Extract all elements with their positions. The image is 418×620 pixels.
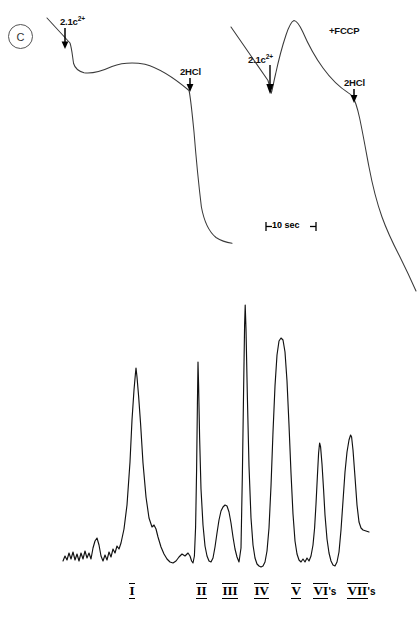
label-hcl-right: 2HCl xyxy=(344,77,365,88)
peak-label-3: III xyxy=(222,583,238,599)
panel-letter: C xyxy=(8,24,33,49)
label-hcl-left: 2HCl xyxy=(180,66,201,77)
peak-label-1: I xyxy=(129,583,135,599)
peak-label-5: V xyxy=(291,583,301,599)
peak-numeral: I xyxy=(129,583,135,599)
peak-label-7: VII's xyxy=(347,583,375,599)
peak-numeral: II xyxy=(196,583,207,599)
bottom-panel xyxy=(63,305,369,567)
label-calcium-left: 2.1c2+ xyxy=(60,16,85,27)
peak-label-4: IV xyxy=(254,583,269,599)
peak-numeral: VII xyxy=(347,583,368,599)
bottom-chromatogram-trace xyxy=(63,305,369,567)
peak-numeral: VI xyxy=(313,583,328,599)
label-calcium-right: 2.1c2+ xyxy=(248,54,273,65)
calcium-arrow-left xyxy=(62,28,69,49)
peak-suffix: 's xyxy=(368,586,376,597)
peak-label-2: II xyxy=(196,583,207,599)
scale-bar-label: 10 sec xyxy=(272,220,300,230)
hcl-arrow-right xyxy=(351,89,358,103)
peak-numeral: V xyxy=(291,583,301,599)
label-fccp: +FCCP xyxy=(329,25,359,36)
peak-label-6: VI's xyxy=(313,583,336,599)
top-trace-left xyxy=(47,18,232,243)
top-panel xyxy=(47,18,416,291)
figure-canvas xyxy=(0,0,418,620)
peak-numeral: IV xyxy=(254,583,269,599)
peak-suffix: 's xyxy=(328,586,336,597)
peak-numeral: III xyxy=(222,583,238,599)
